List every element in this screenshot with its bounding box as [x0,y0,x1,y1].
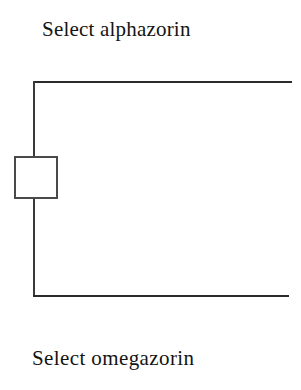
bracket-top-arm [33,81,292,83]
bracket-diagram [0,0,301,390]
label-select-omegazorin: Select omegazorin [32,348,195,369]
diagram-page: Select alphazorin Select omegazorin [0,0,301,390]
square-node-icon [14,156,58,199]
bracket-bottom-arm [33,295,289,297]
